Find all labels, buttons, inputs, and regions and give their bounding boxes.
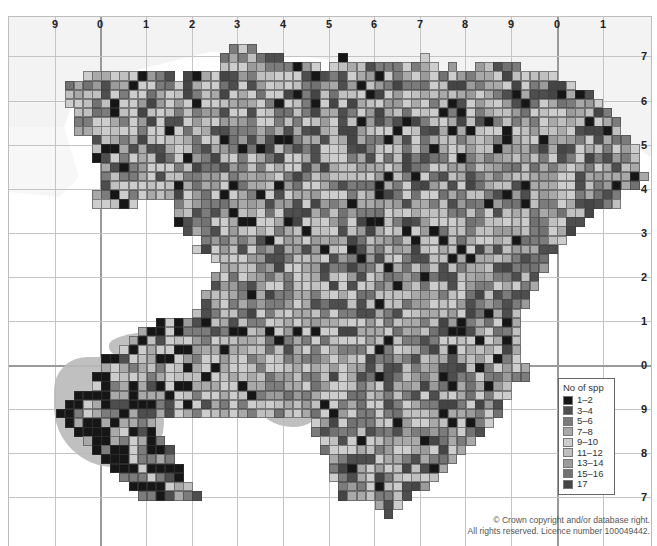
top-axis-label: 9	[508, 18, 514, 30]
legend-swatch	[563, 459, 573, 468]
right-axis-label: 6	[641, 95, 647, 107]
legend-swatch	[563, 396, 573, 405]
right-axis-label: 2	[641, 271, 647, 283]
top-axis-label: 8	[462, 18, 468, 30]
tetrad-cell	[539, 263, 549, 273]
tetrad-cell	[420, 482, 430, 492]
tetrad-cell	[393, 500, 403, 510]
top-axis-label: 0	[554, 18, 560, 30]
top-axis-label: 9	[52, 18, 58, 30]
legend-label: 9–10	[577, 437, 598, 447]
top-axis-label: 7	[417, 18, 423, 30]
tetrad-cell	[557, 236, 567, 246]
copyright-line-2: All rights reserved. Licence number 1000…	[468, 526, 651, 537]
top-axis-label: 5	[326, 18, 332, 30]
tetrad-cell	[466, 436, 476, 446]
legend-label: 15–16	[577, 469, 603, 479]
right-axis-label: 3	[641, 227, 647, 239]
tetrad-cell	[129, 199, 139, 209]
tetrad-cell	[585, 208, 595, 218]
tetrad-cell	[575, 217, 585, 227]
tetrad-cell	[530, 281, 540, 291]
legend-swatch	[563, 469, 573, 478]
tetrad-cell	[384, 509, 394, 519]
tetrad-cell	[484, 418, 494, 428]
legend-swatch	[563, 438, 573, 447]
tetrad-cell	[429, 473, 439, 483]
top-axis-label: 6	[371, 18, 377, 30]
right-axis-label: 0	[641, 359, 647, 371]
right-axis-label: 5	[641, 139, 647, 151]
tetrad-cell	[612, 199, 622, 209]
legend-swatch	[563, 480, 573, 489]
right-axis-label: 1	[641, 315, 647, 327]
top-axis-label: 2	[189, 18, 195, 30]
tetrad-cell	[457, 445, 467, 455]
map-frame: 9012345678901 76543210987	[8, 16, 652, 546]
legend-swatch	[563, 448, 573, 457]
legend-label: 13–14	[577, 458, 603, 468]
legend: No of spp 1–23–45–67–89–1011–1213–1415–1…	[558, 378, 615, 495]
legend-label: 17	[577, 479, 588, 489]
tetrad-cell	[566, 226, 576, 236]
right-axis-label: 9	[641, 403, 647, 415]
copyright-line-1: © Crown copyright and/or database right.	[468, 515, 651, 526]
gridline-horizontal	[9, 56, 651, 57]
copyright-notice: © Crown copyright and/or database right.…	[468, 515, 651, 537]
tetrad-cell	[502, 391, 512, 401]
legend-item: 9–10	[563, 437, 610, 448]
tetrad-cell	[402, 491, 412, 501]
tetrad-cell	[439, 464, 449, 474]
tetrad-cell	[548, 245, 558, 255]
top-axis-label: 3	[234, 18, 240, 30]
legend-label: 3–4	[577, 406, 593, 416]
right-axis-label: 7	[641, 491, 647, 503]
legend-label: 5–6	[577, 416, 593, 426]
tetrad-cell	[639, 172, 649, 182]
tetrad-cell	[630, 181, 640, 191]
legend-label: 1–2	[577, 395, 593, 405]
tetrad-cell	[493, 409, 503, 419]
legend-item: 17	[563, 479, 610, 490]
right-axis-label: 7	[641, 50, 647, 62]
legend-item: 5–6	[563, 416, 610, 427]
legend-item: 13–14	[563, 458, 610, 469]
tetrad-cell	[448, 454, 458, 464]
legend-label: 11–12	[577, 448, 603, 458]
legend-label: 7–8	[577, 427, 593, 437]
top-axis-label: 1	[600, 18, 606, 30]
top-axis-label: 4	[280, 18, 286, 30]
legend-item: 1–2	[563, 395, 610, 406]
tetrad-cell	[521, 372, 531, 382]
top-axis-label: 0	[97, 18, 103, 30]
tetrad-cell	[521, 299, 531, 309]
tetrad-cell	[192, 491, 202, 501]
top-axis-label: 1	[143, 18, 149, 30]
legend-title: No of spp	[563, 382, 610, 394]
legend-swatch	[563, 406, 573, 415]
legend-swatch	[563, 427, 573, 436]
gridline-horizontal	[9, 497, 651, 498]
gridline-vertical	[55, 17, 56, 546]
right-axis-label: 8	[641, 447, 647, 459]
tetrad-cell	[475, 427, 485, 437]
right-axis-label: 4	[641, 183, 647, 195]
legend-swatch	[563, 417, 573, 426]
